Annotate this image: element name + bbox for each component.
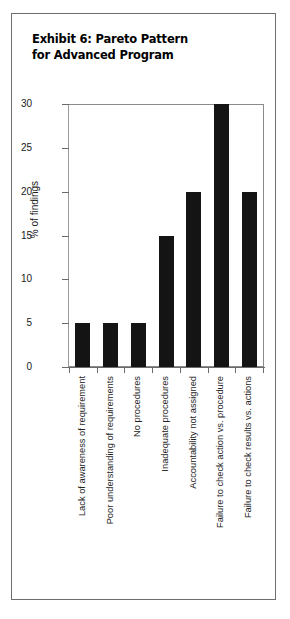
figure-card: Exhibit 6: Pareto Pattern for Advanced P…: [11, 13, 276, 600]
x-tick: [180, 367, 181, 373]
x-tick: [97, 367, 98, 373]
x-tick-label: Accountability not assigned: [189, 376, 198, 489]
x-tick: [152, 367, 153, 373]
y-tick: [62, 192, 69, 193]
x-tick-label: Failure to check action vs. procedure: [216, 376, 225, 528]
y-tick-label: 5: [6, 317, 32, 328]
bar: [242, 192, 257, 367]
y-tick: [62, 323, 69, 324]
y-tick-label: 10: [6, 273, 32, 284]
x-tick: [235, 367, 236, 373]
y-tick-label: 0: [6, 361, 32, 372]
x-tick-label: Poor understanding of requirements: [106, 376, 115, 524]
x-tick-label: No procedures: [133, 376, 142, 437]
x-tick-label: Lack of awareness of requirement: [78, 376, 87, 516]
x-tick: [208, 367, 209, 373]
y-tick-label: 25: [6, 142, 32, 153]
y-axis-title: % of findings: [29, 165, 40, 255]
bar: [131, 323, 146, 367]
y-tick-label: 30: [6, 98, 32, 109]
x-tick: [124, 367, 125, 373]
bar: [103, 323, 118, 367]
x-tick: [69, 367, 70, 373]
x-tick-label: Inadequate procedures: [161, 376, 170, 472]
x-tick: [263, 367, 264, 373]
bar: [214, 104, 229, 367]
bar: [159, 236, 174, 368]
bars-layer: [69, 105, 264, 367]
bar: [186, 192, 201, 367]
bar: [75, 323, 90, 367]
y-tick: [62, 148, 69, 149]
y-tick: [62, 367, 69, 368]
y-tick: [62, 279, 69, 280]
y-tick: [62, 236, 69, 237]
x-axis-labels: Lack of awareness of requirementPoor und…: [68, 376, 268, 591]
y-tick: [62, 104, 69, 105]
page-title: Exhibit 6: Pareto Pattern for Advanced P…: [32, 31, 257, 63]
x-tick-label: Failure to check results vs. actions: [244, 376, 253, 518]
